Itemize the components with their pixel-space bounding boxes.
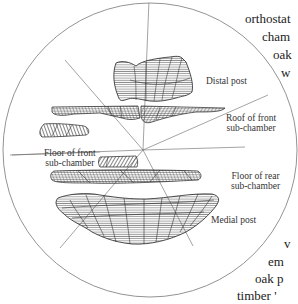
medial-post-section [56,194,219,245]
body-text-top-line1: orthostat [245,11,291,27]
label-distal-post: Distal post [206,76,247,86]
small-fragment-section [40,124,89,137]
floor-front-subchamber-section [99,156,138,167]
body-text-bottom-line2: em [268,254,284,270]
body-text-top-line4: w [281,65,290,81]
distal-post-section [114,56,193,101]
label-floor-front-subchamber: Floor of front sub-chamber [44,148,96,168]
body-text-top-line2: cham [262,29,290,45]
floor-rear-subchamber-section [51,170,201,183]
body-text-bottom-line1: v [284,236,291,252]
body-text-top-line3: oak [273,47,292,63]
label-medial-post: Medial post [211,215,256,225]
label-floor-rear-subchamber: Floor of rear sub-chamber [231,171,280,191]
label-floor-front-line1: Floor of front [44,148,96,158]
label-floor-front-line2: sub-chamber [44,158,96,168]
roof-front-subchamber-section [52,106,225,123]
label-roof-front-line1: Roof of front [226,113,276,123]
label-floor-rear-line2: sub-chamber [231,181,280,191]
body-text-bottom-line4: timber ' [237,288,277,304]
label-roof-front-line2: sub-chamber [226,123,276,133]
label-floor-rear-line1: Floor of rear [231,171,280,181]
body-text-bottom-line3: oak p [255,271,284,287]
label-roof-front-subchamber: Roof of front sub-chamber [226,113,276,133]
